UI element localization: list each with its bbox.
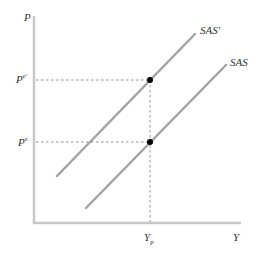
- sas-prime-label: SAS': [200, 25, 220, 36]
- x-axis-label-text: Y: [233, 231, 239, 243]
- pe-prime-tick-label: Pe': [16, 73, 27, 85]
- pe-sup: e: [25, 135, 28, 143]
- sas-prime-label-text: SAS': [200, 24, 220, 36]
- x-axis-label: Y: [233, 232, 239, 243]
- diagram-canvas: [0, 0, 260, 255]
- sas-label-text: SAS: [230, 56, 248, 68]
- yp-tick-label: Yp: [144, 232, 154, 246]
- y-axis-label: P: [24, 12, 31, 23]
- pe-prime-sup: e': [23, 72, 28, 80]
- sas-curve: [86, 65, 226, 208]
- pe-base: P: [18, 136, 25, 148]
- sas-label: SAS: [230, 57, 248, 68]
- yp-sub: p: [150, 238, 154, 246]
- y-axis-label-text: P: [24, 11, 31, 23]
- sas-prime-curve: [57, 34, 195, 176]
- pe-tick-label: Pe: [18, 136, 28, 148]
- sas-shift-diagram: P Pe' Pe Yp Y SAS' SAS: [0, 0, 260, 255]
- pe-prime-base: P: [16, 73, 23, 85]
- sas-prime-equilibrium-point: [147, 77, 153, 83]
- sas-equilibrium-point: [147, 139, 153, 145]
